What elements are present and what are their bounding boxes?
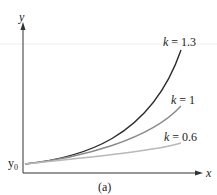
y-axis-label: y <box>18 10 25 24</box>
figure-caption: (a) <box>98 180 111 194</box>
curve-k-0.6 <box>25 143 181 164</box>
x-axis-label: x <box>205 166 212 180</box>
y0-label: y0 <box>8 156 18 172</box>
label-k-1.3: k = 1.3 <box>163 35 196 49</box>
x-axis-arrow-icon <box>195 171 203 176</box>
label-k-0.6: k = 0.6 <box>164 130 197 144</box>
curve-k-1.3 <box>25 50 181 164</box>
exponential-growth-diagram: y x y0 k = 1.3 k = 1 k = 0.6 (a) <box>0 0 217 195</box>
label-k-1: k = 1 <box>171 93 195 107</box>
